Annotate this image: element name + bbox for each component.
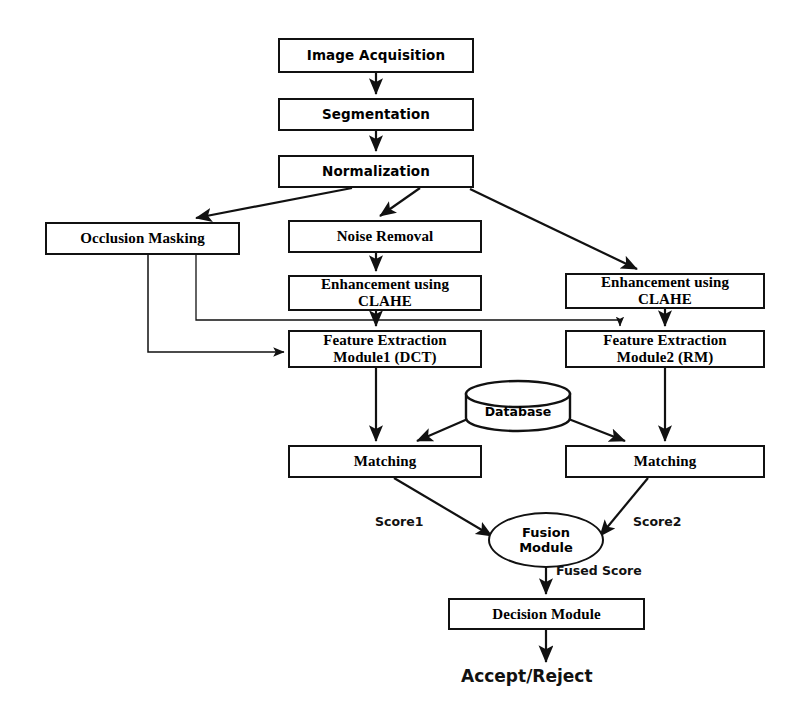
node-label-line2: Module1 (DCT) [333, 349, 436, 365]
node-label: Segmentation [322, 107, 430, 122]
node-label: Image Acquisition [307, 48, 445, 63]
node-label-line1: Fusion [522, 525, 570, 540]
node-label-line1: Enhancement using [321, 276, 449, 292]
node-label: Database [466, 404, 570, 419]
node-label: Fusion Module [519, 525, 573, 556]
node-fusion-module[interactable]: Fusion Module [488, 512, 604, 568]
node-label-line1: Enhancement using [601, 274, 729, 290]
node-decision-module[interactable]: Decision Module [448, 598, 645, 630]
node-image-acquisition[interactable]: Image Acquisition [278, 38, 474, 73]
node-label-line2: Module2 (RM) [617, 349, 714, 365]
node-matching-left[interactable]: Matching [288, 445, 482, 478]
node-matching-right[interactable]: Matching [565, 445, 765, 478]
edge-label-score2: Score2 [633, 514, 681, 529]
node-feature-extraction-module2[interactable]: Feature Extraction Module2 (RM) [565, 330, 765, 368]
node-label: Feature Extraction Module2 (RM) [603, 332, 727, 366]
node-occlusion-masking[interactable]: Occlusion Masking [45, 222, 240, 255]
node-label: Feature Extraction Module1 (DCT) [323, 332, 447, 366]
flowchart-canvas: Image Acquisition Segmentation Normaliza… [0, 0, 802, 710]
node-label: Occlusion Masking [80, 230, 205, 247]
edge-label-fused-score: Fused Score [556, 563, 642, 578]
node-label: Decision Module [492, 606, 601, 623]
node-label-line2: CLAHE [638, 291, 692, 307]
node-label: Enhancement using CLAHE [321, 276, 449, 310]
node-label-line2: Module [519, 540, 573, 555]
node-label: Enhancement using CLAHE [601, 274, 729, 308]
node-segmentation[interactable]: Segmentation [278, 98, 474, 131]
node-enhancement-clahe-right[interactable]: Enhancement using CLAHE [565, 273, 765, 309]
node-accept-reject: Accept/Reject [461, 666, 593, 686]
node-noise-removal[interactable]: Noise Removal [288, 220, 482, 253]
edge-label-score1: Score1 [375, 514, 423, 529]
node-feature-extraction-module1[interactable]: Feature Extraction Module1 (DCT) [288, 330, 482, 368]
node-enhancement-clahe-left[interactable]: Enhancement using CLAHE [288, 275, 482, 311]
node-label: Matching [634, 453, 696, 470]
node-normalization[interactable]: Normalization [278, 155, 474, 188]
node-label-line1: Feature Extraction [323, 332, 447, 348]
node-label: Normalization [322, 164, 430, 179]
node-database[interactable]: Database [466, 383, 570, 431]
node-label-line2: CLAHE [358, 293, 412, 309]
node-label: Matching [354, 453, 416, 470]
node-label: Noise Removal [337, 228, 434, 245]
node-label-line1: Feature Extraction [603, 332, 727, 348]
